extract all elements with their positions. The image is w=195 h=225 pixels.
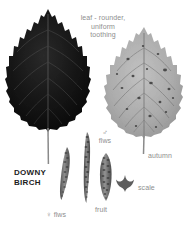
species-title: DOWNY BIRCH: [14, 168, 46, 187]
male-symbol-icon: ♂: [96, 129, 114, 137]
male-flower-label: ♂ flws: [96, 129, 114, 146]
leaf-note-label: leaf - rounder, uniform toothing: [72, 14, 134, 40]
female-flws-text: flws: [54, 211, 66, 218]
autumn-leaf-figure: [103, 26, 189, 156]
fruit-label: fruit: [95, 206, 107, 215]
male-catkin-figure: [79, 131, 97, 205]
seed-scale-figure: [114, 172, 136, 194]
female-catkin-figure: [56, 146, 76, 202]
scale-label: scale: [138, 184, 155, 193]
species-title-line1: DOWNY: [14, 168, 46, 178]
female-flower-label: ♀ flws: [46, 203, 66, 221]
autumn-leaf-petiole: [144, 135, 145, 154]
male-flws-text: flws: [96, 137, 114, 146]
botanical-plate: leaf - rounder, uniform toothing DOWNY B…: [0, 0, 195, 225]
autumn-label: autumn: [148, 152, 172, 161]
species-title-line2: BIRCH: [14, 178, 46, 188]
fruit-catkin-figure: [96, 152, 116, 202]
